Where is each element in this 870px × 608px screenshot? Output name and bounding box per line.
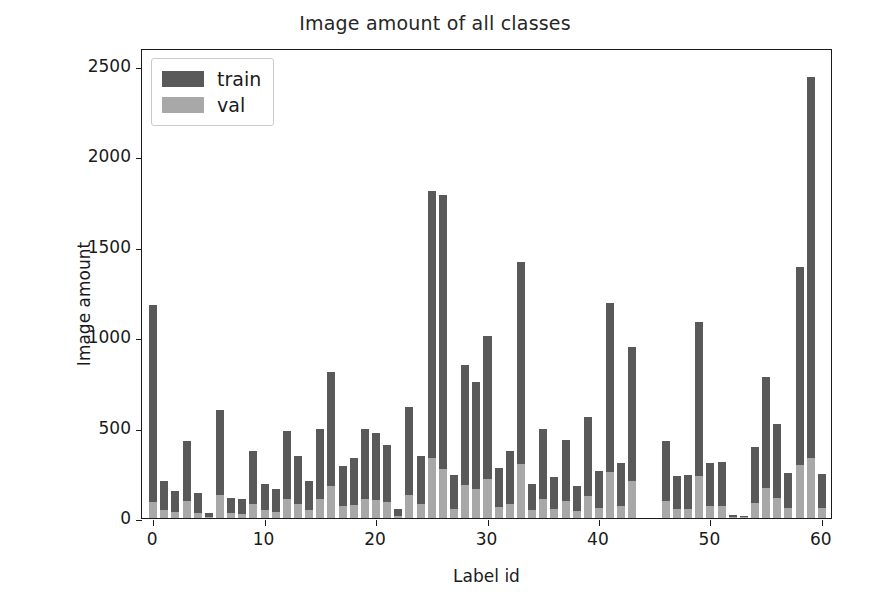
bar-group[interactable] [695, 50, 703, 518]
bar-val [784, 508, 792, 518]
y-tick-mark [136, 158, 142, 159]
x-tick-label: 40 [568, 529, 628, 549]
bar-group[interactable] [773, 50, 781, 518]
bar-group[interactable] [718, 50, 726, 518]
bar-group[interactable] [405, 50, 413, 518]
x-tick-mark [599, 520, 600, 526]
bar-group[interactable] [383, 50, 391, 518]
x-tick-label: 50 [679, 529, 739, 549]
y-tick-mark [136, 520, 142, 521]
bar-group[interactable] [573, 50, 581, 518]
bar-val [149, 502, 157, 518]
bar-group[interactable] [528, 50, 536, 518]
bar-group[interactable] [751, 50, 759, 518]
bar-group[interactable] [394, 50, 402, 518]
x-tick-mark [376, 520, 377, 526]
y-tick-label: 0 [61, 508, 131, 528]
bar-group[interactable] [762, 50, 770, 518]
bar-group[interactable] [305, 50, 313, 518]
bar-group[interactable] [796, 50, 804, 518]
legend-swatch-icon [162, 71, 204, 87]
bar-group[interactable] [428, 50, 436, 518]
bar-val [450, 509, 458, 518]
bar-val [695, 476, 703, 518]
bar-group[interactable] [584, 50, 592, 518]
bar-group[interactable] [539, 50, 547, 518]
bar-val [773, 498, 781, 518]
y-tick-mark [136, 68, 142, 69]
bar-group[interactable] [807, 50, 815, 518]
bar-val [227, 513, 235, 518]
bar-group[interactable] [628, 50, 636, 518]
bar-val [539, 499, 547, 518]
bar-val [684, 509, 692, 518]
bar-val [283, 499, 291, 518]
bar-group[interactable] [595, 50, 603, 518]
bar-group[interactable] [673, 50, 681, 518]
chart-title: Image amount of all classes [0, 12, 870, 34]
x-tick-mark [153, 520, 154, 526]
y-tick-mark [136, 430, 142, 431]
bar-group[interactable] [350, 50, 358, 518]
bar-group[interactable] [729, 50, 737, 518]
bar-val [818, 508, 826, 518]
bar-val [261, 510, 269, 518]
x-tick-mark [710, 520, 711, 526]
bar-group[interactable] [461, 50, 469, 518]
bar-val [417, 504, 425, 518]
bar-train [149, 305, 157, 518]
bar-val [171, 512, 179, 518]
legend: trainval [151, 58, 274, 126]
bar-group[interactable] [472, 50, 480, 518]
bar-val [506, 504, 514, 518]
bar-group[interactable] [372, 50, 380, 518]
x-tick-label: 30 [457, 529, 517, 549]
bar-group[interactable] [316, 50, 324, 518]
legend-item[interactable]: train [162, 66, 261, 92]
bar-group[interactable] [483, 50, 491, 518]
legend-item[interactable]: val [162, 92, 261, 118]
bar-val [751, 503, 759, 518]
bar-val [528, 510, 536, 518]
bar-val [807, 458, 815, 518]
bar-group[interactable] [617, 50, 625, 518]
bar-group[interactable] [506, 50, 514, 518]
bar-group[interactable] [294, 50, 302, 518]
bar-val [216, 495, 224, 519]
bar-group[interactable] [706, 50, 714, 518]
legend-label: val [217, 94, 245, 116]
bar-group[interactable] [662, 50, 670, 518]
x-tick-label: 20 [345, 529, 405, 549]
bar-group[interactable] [784, 50, 792, 518]
figure-canvas: Image amount of all classes Image amount… [0, 0, 870, 608]
bar-group[interactable] [417, 50, 425, 518]
bar-group[interactable] [439, 50, 447, 518]
bar-group[interactable] [283, 50, 291, 518]
bar-val [740, 517, 748, 518]
x-tick-mark [488, 520, 489, 526]
bar-group[interactable] [361, 50, 369, 518]
bar-group[interactable] [327, 50, 335, 518]
x-tick-label: 0 [122, 529, 182, 549]
bar-val [316, 499, 324, 518]
bar-group[interactable] [818, 50, 826, 518]
bar-group[interactable] [740, 50, 748, 518]
bar-val [517, 464, 525, 518]
bar-val [606, 472, 614, 518]
bar-val [584, 496, 592, 518]
bar-val [662, 501, 670, 518]
bar-val [573, 511, 581, 518]
bar-group[interactable] [339, 50, 347, 518]
bar-val [729, 517, 737, 518]
bar-group[interactable] [562, 50, 570, 518]
bar-group[interactable] [550, 50, 558, 518]
bar-group[interactable] [684, 50, 692, 518]
bar-val [617, 506, 625, 518]
bar-group[interactable] [517, 50, 525, 518]
bar-group[interactable] [495, 50, 503, 518]
bar-val [673, 509, 681, 518]
bar-train [807, 77, 815, 518]
bar-group[interactable] [606, 50, 614, 518]
bar-val [383, 502, 391, 518]
bar-group[interactable] [450, 50, 458, 518]
